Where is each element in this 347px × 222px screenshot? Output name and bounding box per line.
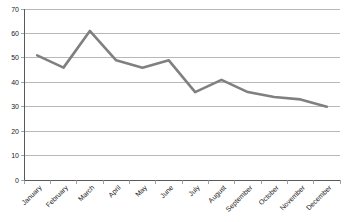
chart-canvas: 010203040506070JanuaryFebruaryMarchApril… [0, 0, 347, 222]
x-tick-label-august: August [207, 184, 228, 205]
x-tick-marks [24, 180, 340, 184]
data-series-group [37, 31, 327, 107]
y-tick-label-30: 30 [11, 103, 19, 110]
x-tick-label-september: September [224, 183, 254, 213]
y-axis-labels: 010203040506070 [11, 6, 19, 184]
x-tick-label-january: January [20, 183, 44, 207]
line-chart-figure: 010203040506070JanuaryFebruaryMarchApril… [0, 0, 347, 222]
y-tick-label-70: 70 [11, 6, 19, 13]
x-tick-label-july: July [187, 183, 202, 198]
y-tick-label-60: 60 [11, 30, 19, 37]
x-tick-label-april: April [107, 183, 123, 199]
axes-group [21, 9, 340, 180]
y-tick-label-10: 10 [11, 152, 19, 159]
gridlines-group [24, 9, 340, 156]
x-tick-label-february: February [44, 183, 70, 209]
y-tick-label-0: 0 [15, 177, 19, 184]
data-line-series-0 [37, 31, 327, 107]
y-tick-label-50: 50 [11, 54, 19, 61]
x-axis-labels: JanuaryFebruaryMarchAprilMayJuneJulyAugu… [20, 183, 333, 213]
x-tick-label-december: December [305, 183, 333, 211]
x-tick-label-october: October [257, 183, 280, 206]
y-tick-label-40: 40 [11, 79, 19, 86]
y-tick-label-20: 20 [11, 128, 19, 135]
x-tick-label-november: November [278, 183, 306, 211]
x-tick-label-may: May [134, 183, 149, 198]
x-tick-label-march: March [77, 184, 96, 203]
x-tick-label-june: June [159, 184, 175, 200]
